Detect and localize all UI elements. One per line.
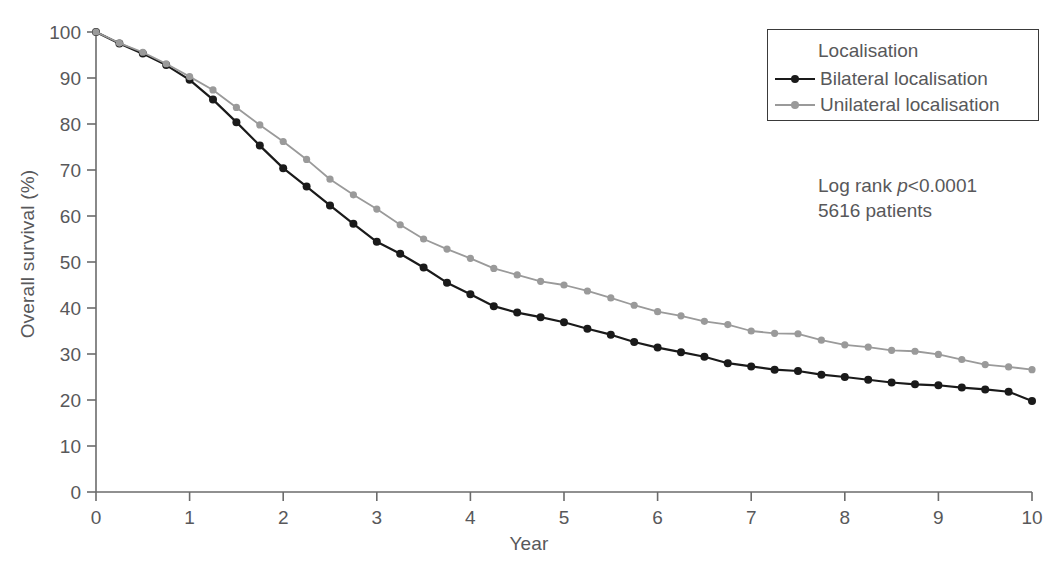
svg-text:100: 100 — [49, 22, 81, 43]
svg-text:0: 0 — [91, 507, 102, 528]
svg-text:8: 8 — [840, 507, 851, 528]
svg-text:60: 60 — [60, 206, 81, 227]
svg-text:6: 6 — [652, 507, 663, 528]
svg-text:10: 10 — [1021, 507, 1042, 528]
survival-chart: 0102030405060708090100012345678910 Overa… — [0, 0, 1058, 571]
svg-text:40: 40 — [60, 298, 81, 319]
log-rank-prefix: Log rank — [818, 175, 897, 196]
svg-text:90: 90 — [60, 68, 81, 89]
svg-text:50: 50 — [60, 252, 81, 273]
legend-item-unilateral[interactable]: Unilateral localisation — [775, 92, 1000, 118]
log-rank-p-symbol: p — [897, 175, 908, 196]
legend-label-bilateral: Bilateral localisation — [820, 68, 988, 90]
svg-text:4: 4 — [465, 507, 476, 528]
svg-text:10: 10 — [60, 436, 81, 457]
log-rank-annotation: Log rank p<0.0001 — [818, 175, 977, 197]
log-rank-value: <0.0001 — [908, 175, 977, 196]
svg-text:80: 80 — [60, 114, 81, 135]
legend-label-unilateral: Unilateral localisation — [820, 94, 1000, 116]
legend-item-bilateral[interactable]: Bilateral localisation — [775, 66, 988, 92]
legend-swatch-bilateral — [775, 72, 815, 86]
svg-text:1: 1 — [184, 507, 195, 528]
svg-text:30: 30 — [60, 344, 81, 365]
svg-text:2: 2 — [278, 507, 289, 528]
svg-text:9: 9 — [933, 507, 944, 528]
svg-text:5: 5 — [559, 507, 570, 528]
svg-text:20: 20 — [60, 390, 81, 411]
svg-text:70: 70 — [60, 160, 81, 181]
patient-count-annotation: 5616 patients — [818, 200, 932, 222]
legend-title: Localisation — [818, 40, 918, 62]
svg-text:0: 0 — [70, 482, 81, 503]
legend-swatch-unilateral — [775, 98, 815, 112]
y-axis-title: Overall survival (%) — [17, 144, 39, 364]
x-axis-title: Year — [0, 533, 1058, 555]
svg-text:3: 3 — [372, 507, 383, 528]
svg-text:7: 7 — [746, 507, 757, 528]
